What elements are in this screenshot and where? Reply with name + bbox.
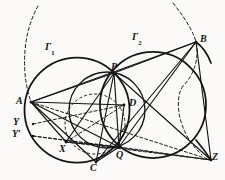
segment-X-D [66, 105, 124, 142]
label-point-x: X [59, 144, 66, 154]
point-Y-prime [32, 135, 34, 137]
chord-lines [31, 42, 211, 162]
label-point-q: Q [116, 150, 123, 160]
label-point-b: B [200, 34, 207, 44]
label-gamma-1-subscript: 1 [51, 49, 54, 56]
label-prime-mark: ′ [18, 128, 21, 139]
label-gamma-2: Γ2 [132, 32, 141, 45]
label-point-d: D [129, 98, 136, 108]
label-point-y: Y [13, 117, 19, 127]
point-B [195, 41, 198, 44]
label-gamma-2-subscript: 2 [138, 39, 141, 46]
geometry-figure: Γ1 Γ2 A B C D P Q X Y Y′ Z [0, 0, 225, 180]
point-A [30, 101, 33, 104]
segment-Y-D [33, 105, 124, 124]
arc-left-dashed [25, 6, 38, 102]
point-Y [32, 123, 34, 125]
label-point-a: A [16, 96, 23, 106]
geometry-canvas [0, 0, 225, 180]
segment-A-D [31, 102, 124, 105]
label-gamma-1: Γ1 [45, 42, 54, 55]
solid-segments [31, 42, 211, 162]
label-point-c: C [90, 163, 97, 173]
label-point-y-prime: Y′ [12, 129, 21, 139]
label-point-z: Z [212, 152, 218, 162]
arc-right-lower-dashed [178, 86, 202, 155]
point-D [123, 104, 126, 107]
label-point-p: P [111, 62, 117, 72]
